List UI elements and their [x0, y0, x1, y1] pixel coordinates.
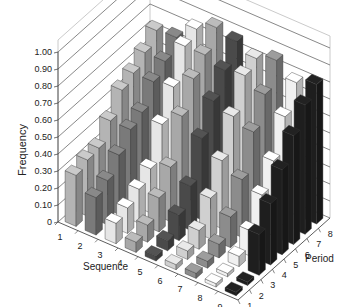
sequence-tick-label: 3 [97, 250, 102, 260]
y-tick-label: 0.20 [34, 183, 52, 193]
period-tick-label: 8 [328, 229, 333, 239]
sequence-axis-title: Sequence [83, 261, 128, 272]
y-tick-label: 0.90 [34, 64, 52, 74]
bar [225, 282, 242, 296]
bar [248, 224, 265, 275]
sequence-tick-label: 6 [157, 276, 162, 286]
y-tick-label: 0.70 [34, 98, 52, 108]
sequence-tick-label: 8 [197, 293, 202, 303]
bar [85, 187, 102, 235]
sequence-tick-label: 1 [57, 232, 62, 242]
y-tick-label: 0.80 [34, 81, 52, 91]
sequence-tick-label: 2 [77, 241, 82, 251]
y-tick-label: 0.10 [34, 200, 52, 210]
sequence-tick-label: 5 [137, 267, 142, 277]
y-tick-label: 0.60 [34, 115, 52, 125]
3d-bar-chart: 00.100.200.300.400.500.600.700.800.901.0… [0, 0, 345, 307]
bar [65, 165, 82, 226]
y-axis-title: Frequency [16, 124, 28, 176]
bar [185, 263, 202, 279]
bar [205, 273, 222, 287]
bars [65, 17, 323, 295]
period-tick-label: 4 [282, 270, 287, 280]
y-tick-label: 0.40 [34, 149, 52, 159]
bar [237, 272, 254, 286]
period-tick-label: 5 [293, 260, 298, 270]
bar [145, 246, 162, 262]
period-tick-label: 3 [270, 280, 275, 290]
period-axis-title: Period [305, 253, 334, 264]
bar [165, 254, 182, 270]
y-tick-label: 0.50 [34, 132, 52, 142]
sequence-tick-label: 9 [217, 302, 222, 307]
y-tick-label: 0 [47, 217, 52, 227]
period-tick-label: 7 [316, 239, 321, 249]
sequence-tick-label: 7 [177, 284, 182, 294]
period-tick-label: 1 [247, 301, 252, 307]
y-tick-label: 1.00 [34, 47, 52, 57]
bar [105, 213, 122, 244]
y-tick-label: 0.30 [34, 166, 52, 176]
bar [217, 263, 234, 277]
period-tick-label: 2 [259, 291, 264, 301]
